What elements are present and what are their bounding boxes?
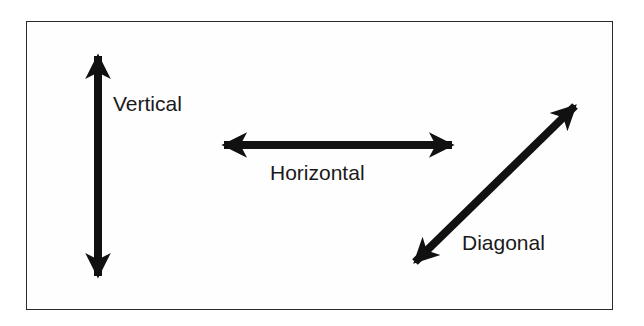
horizontal-label: Horizontal	[270, 162, 365, 183]
vertical-label: Vertical	[113, 93, 182, 114]
diagonal-label: Diagonal	[462, 232, 545, 253]
